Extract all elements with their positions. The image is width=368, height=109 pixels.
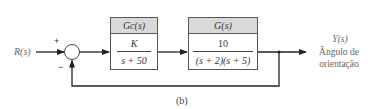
plant-numerator: 10 bbox=[189, 38, 257, 49]
minus-sign: − bbox=[58, 63, 63, 72]
controller-header: Gc(s) bbox=[111, 18, 157, 34]
output-description-line1: Ângulo de bbox=[310, 48, 368, 58]
figure-caption: (b) bbox=[176, 96, 188, 106]
fraction-bar bbox=[193, 51, 253, 52]
controller-numerator: K bbox=[111, 38, 157, 49]
fraction-bar bbox=[117, 51, 151, 52]
summing-junction bbox=[65, 45, 80, 60]
output-label: Y(s) bbox=[322, 35, 358, 45]
output-description-line2: orientação bbox=[310, 60, 368, 70]
plant-denominator: (s + 2)(s + 5) bbox=[189, 55, 257, 66]
input-label: R(s) bbox=[14, 47, 31, 57]
controller-denominator: s + 50 bbox=[111, 55, 157, 66]
plant-header: G(s) bbox=[189, 18, 257, 34]
plant-block: G(s) 10 (s + 2)(s + 5) bbox=[188, 17, 258, 70]
plus-sign: + bbox=[54, 37, 59, 46]
controller-block: Gc(s) K s + 50 bbox=[110, 17, 158, 70]
